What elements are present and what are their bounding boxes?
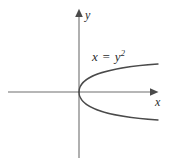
axes-group: [8, 9, 159, 158]
y-axis-arrow-icon: [75, 9, 83, 17]
equation-variable-x: x: [92, 49, 98, 64]
parabola-upper-branch: [79, 64, 158, 92]
parabola-figure: x = y2 y x: [0, 0, 171, 168]
equation-equals-sign: =: [102, 49, 111, 64]
figure-canvas: [0, 0, 171, 168]
x-axis-label: x: [155, 96, 160, 108]
curve-equation-label: x = y2: [92, 50, 126, 63]
equation-exponent: 2: [121, 48, 126, 58]
parabola-lower-branch: [79, 92, 158, 120]
y-axis-label: y: [85, 9, 90, 21]
